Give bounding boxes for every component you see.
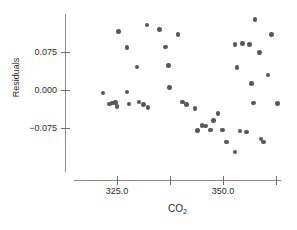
data-point: [266, 73, 271, 78]
x-axis-title-subscript: 2: [183, 208, 187, 215]
data-point: [240, 41, 245, 46]
data-point: [261, 140, 266, 145]
data-point: [157, 27, 162, 32]
data-point: [233, 42, 238, 47]
data-point: [146, 105, 151, 110]
y-axis-tick: [61, 128, 70, 129]
data-point: [220, 128, 225, 133]
x-axis-tick: [170, 176, 171, 185]
data-point: [101, 91, 106, 96]
data-point: [224, 140, 229, 145]
data-point: [163, 45, 168, 50]
data-point: [116, 29, 121, 34]
data-point: [195, 128, 200, 133]
data-point: [247, 42, 252, 47]
data-point: [145, 23, 150, 28]
x-axis-tick: [276, 176, 277, 185]
x-axis-tick-label: 325.0: [94, 187, 140, 196]
y-axis-tick: [61, 90, 70, 91]
y-axis-line: [65, 14, 66, 172]
data-point: [269, 32, 274, 37]
data-point: [184, 102, 189, 107]
x-axis-tick: [117, 176, 118, 185]
x-axis-title: CO2: [74, 203, 281, 217]
data-point: [275, 101, 280, 106]
x-axis-line: [74, 180, 281, 181]
data-point: [211, 118, 216, 123]
data-point: [193, 106, 198, 111]
y-axis-tick-label: −0.075: [17, 124, 57, 133]
data-point: [249, 81, 254, 86]
data-point: [135, 65, 140, 70]
y-axis-tick-label: 0.000: [17, 86, 57, 95]
y-axis-title: Residuals: [12, 48, 21, 108]
data-point: [233, 150, 238, 155]
data-point: [176, 32, 181, 37]
x-axis-tick: [223, 176, 224, 185]
data-point: [115, 104, 120, 109]
data-point: [235, 65, 240, 70]
data-point: [167, 85, 172, 90]
data-point: [251, 101, 256, 106]
data-point: [244, 130, 249, 135]
data-point: [203, 124, 208, 129]
data-point: [216, 111, 221, 116]
x-axis-title-text: CO: [168, 203, 183, 214]
y-axis-tick: [61, 52, 70, 53]
data-point: [253, 17, 258, 22]
data-point: [257, 50, 262, 55]
data-point: [127, 102, 132, 107]
data-point: [208, 128, 213, 133]
scatter-plot: 0.0750.000−0.075 325.0350.0 Residuals CO…: [0, 0, 297, 230]
data-point: [238, 129, 243, 134]
y-axis-tick-label: 0.075: [17, 48, 57, 57]
data-point: [166, 63, 171, 68]
data-point: [125, 45, 130, 50]
data-point: [125, 90, 130, 95]
x-axis-tick-label: 350.0: [200, 187, 246, 196]
